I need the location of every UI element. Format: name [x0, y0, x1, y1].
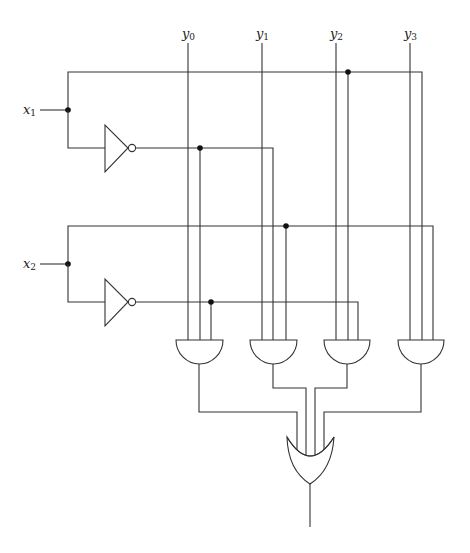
or-gate — [287, 437, 334, 484]
x1-to-not1 — [68, 110, 105, 148]
label-y3: y3 — [404, 27, 417, 42]
not-x1-junction — [197, 145, 203, 151]
not-gate-2 — [105, 279, 128, 326]
x2-to-not2 — [68, 264, 105, 302]
circuit-diagram — [0, 0, 470, 553]
and3-output — [324, 364, 421, 458]
label-y0-sub: 0 — [189, 32, 195, 42]
not-gate-1 — [105, 125, 128, 172]
and-gate-1 — [250, 340, 297, 364]
x2-rail-junction — [283, 223, 289, 229]
not-x2-rail — [136, 302, 358, 340]
and0-output — [199, 364, 297, 458]
not-gate-1-bubble — [128, 144, 135, 151]
not-gate-2-bubble — [128, 298, 135, 305]
label-x2: x2 — [23, 257, 36, 272]
and-gate-2 — [324, 340, 370, 364]
not-x1-rail — [136, 148, 273, 340]
x1-rail-junction — [345, 69, 351, 75]
label-y1-sub: 1 — [263, 32, 269, 42]
x2-rail — [68, 226, 433, 340]
not-x2-junction — [208, 299, 214, 305]
label-y3-sub: 3 — [411, 32, 417, 42]
label-x2-sub: 2 — [30, 262, 36, 272]
label-x1: x1 — [23, 103, 36, 118]
label-y1: y1 — [256, 27, 269, 42]
and-gate-3 — [398, 340, 444, 364]
label-y0: y0 — [182, 27, 195, 42]
and-gate-0 — [176, 340, 223, 364]
label-y2-sub: 2 — [337, 32, 343, 42]
label-x1-sub: 1 — [30, 108, 36, 118]
label-y2: y2 — [330, 27, 343, 42]
